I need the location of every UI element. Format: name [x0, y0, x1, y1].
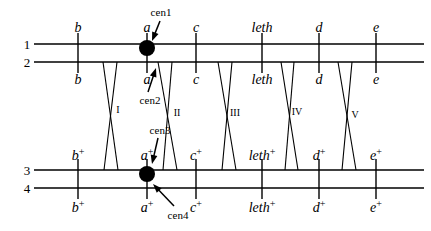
locus-label-bottom-dp: d+ [313, 199, 326, 216]
crossover-label-IV: IV [292, 107, 303, 117]
locus-label-bottom-cp: c+ [190, 199, 202, 216]
crossover-strand-II-b [163, 62, 172, 170]
centromere-label-cen3: cen3 [150, 125, 171, 136]
arrow-head-cen2 [150, 68, 156, 78]
locus-label-upperbottom-b: b [75, 73, 82, 87]
locus-label-upperbottom-c: c [193, 73, 199, 87]
locus-label-top-d: d [316, 21, 323, 35]
locus-label-upperbottom-d: d [316, 73, 323, 87]
arrow-shaft-cen4 [157, 188, 174, 206]
centromere-label-cen2: cen2 [140, 95, 161, 106]
locus-label-top-a: a [144, 21, 151, 35]
locus-label-top-e: e [373, 21, 379, 35]
crossover-label-III: III [230, 108, 240, 118]
locus-label-bottom-ap: a+ [141, 199, 154, 216]
row-number-row1: 1 [24, 38, 31, 51]
locus-label-lowertop-ep: e+ [370, 147, 382, 164]
locus-label-upperbottom-a: a [144, 73, 151, 87]
locus-label-upperbottom-e: e [373, 73, 379, 87]
locus-label-bottom-bp: b+ [72, 199, 85, 216]
locus-label-top-b: b [75, 21, 82, 35]
locus-label-top-leth: leth [252, 21, 273, 35]
crossover-strand-I-b [104, 62, 117, 170]
locus-label-bottom-lethp: leth+ [249, 199, 276, 216]
row-number-row4: 4 [24, 182, 31, 195]
diagram-svg [0, 0, 431, 231]
locus-label-lowertop-bp: b+ [72, 147, 85, 164]
arrow-head-cen1 [152, 31, 158, 41]
crossover-label-I: I [116, 105, 119, 115]
crossover-label-II: II [174, 108, 181, 118]
locus-label-bottom-ep: e+ [370, 199, 382, 216]
locus-label-upperbottom-leth: leth [252, 73, 273, 87]
diagram-canvas: 1234bbaacclethlethddeeb+b+a+a+c+c+leth+l… [0, 0, 431, 231]
locus-label-top-c: c [193, 21, 199, 35]
locus-label-lowertop-cp: c+ [190, 147, 202, 164]
centromere-label-cen1: cen1 [151, 7, 172, 18]
centromere-label-cen4: cen4 [168, 210, 189, 221]
crossover-label-V: V [351, 110, 358, 120]
cen-dot-bottom [139, 166, 155, 182]
locus-label-lowertop-dp: d+ [313, 147, 326, 164]
chromosome-lines-group [34, 44, 424, 188]
row-number-row2: 2 [24, 56, 31, 69]
cen-dot-top [139, 40, 155, 56]
locus-label-lowertop-lethp: leth+ [249, 147, 276, 164]
locus-label-lowertop-ap: a+ [141, 147, 154, 164]
row-number-row3: 3 [24, 164, 31, 177]
